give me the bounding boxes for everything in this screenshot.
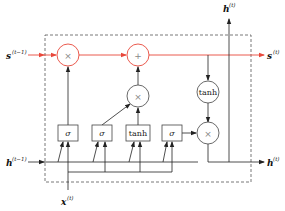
forget-multiply-symbol: × xyxy=(64,51,72,61)
cell-state-out-label: s (t) xyxy=(267,49,280,61)
input-x-label: x (t) xyxy=(60,195,74,207)
svg-text:s: s xyxy=(267,51,272,61)
output-multiply-symbol: × xyxy=(204,129,212,139)
lstm-diagram: × + s (t−1) s (t) xyxy=(0,0,285,211)
input-gate-label: σ xyxy=(99,129,105,138)
svg-text:(t): (t) xyxy=(273,156,280,162)
hidden-right-label: h (t) xyxy=(267,156,280,168)
svg-text:s: s xyxy=(6,51,11,61)
output-gate-label: σ xyxy=(169,129,175,138)
svg-text:(t): (t) xyxy=(273,49,280,55)
svg-text:(t): (t) xyxy=(229,2,236,8)
svg-text:x: x xyxy=(60,197,67,207)
add-symbol: + xyxy=(134,51,142,61)
svg-text:(t): (t) xyxy=(67,195,74,201)
svg-text:(t−1): (t−1) xyxy=(12,156,27,162)
candidate-gate-label: tanh xyxy=(129,129,147,138)
forget-gate-label: σ xyxy=(65,129,71,138)
cell-tanh-label: tanh xyxy=(199,88,217,97)
input-multiply-symbol: × xyxy=(134,92,142,102)
svg-text:(t−1): (t−1) xyxy=(12,49,27,55)
cell-state-prev-label: s (t−1) xyxy=(6,49,27,61)
hidden-top-label: h (t) xyxy=(223,2,236,14)
hidden-prev-label: h (t−1) xyxy=(6,156,27,168)
